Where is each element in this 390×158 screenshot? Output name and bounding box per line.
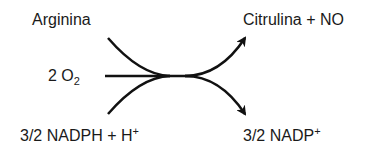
arginine-label: Arginina <box>32 11 91 29</box>
nadp-arrow <box>185 76 245 114</box>
arginine-arrow <box>108 38 170 76</box>
citrulline-arrow <box>185 38 245 76</box>
nadp-label: 3/2 NADP+ <box>243 127 321 145</box>
nadph-label: 3/2 NADPH + H+ <box>20 127 139 145</box>
nadph-arrow <box>108 76 170 114</box>
oxygen-label: 2 O2 <box>48 67 80 85</box>
citrulline-no-label: Citrulina + NO <box>243 11 344 29</box>
